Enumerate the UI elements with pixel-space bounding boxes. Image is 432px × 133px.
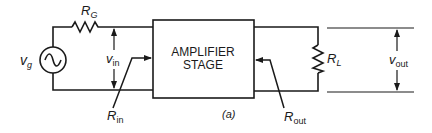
load-resistor-label: RL [327, 51, 341, 68]
input-resistance-label: Rin [107, 108, 123, 125]
source-resistor-icon [72, 22, 100, 32]
rout-pointer-arrow-icon [256, 60, 284, 108]
amplifier-circuit-diagram: vg RG vin Rin AMPLIFIER STAGE (a) Rout R… [0, 0, 432, 133]
output-top-wire [254, 27, 318, 45]
source-bottom-wire [53, 73, 153, 90]
input-voltage-label: vin [106, 51, 120, 68]
source-top-wire [53, 27, 72, 47]
output-resistance-label: Rout [284, 109, 306, 126]
source-label: vg [20, 52, 32, 70]
figure-caption: (a) [222, 108, 236, 120]
load-resistor-icon [313, 45, 323, 73]
amplifier-label-line2: STAGE [183, 58, 223, 72]
output-voltage-label: vout [389, 52, 409, 69]
source-resistor-label: RG [81, 3, 97, 20]
output-bottom-wire [254, 73, 318, 91]
sine-wave-icon [45, 54, 61, 66]
amplifier-label-line1: AMPLIFIER [171, 45, 235, 59]
